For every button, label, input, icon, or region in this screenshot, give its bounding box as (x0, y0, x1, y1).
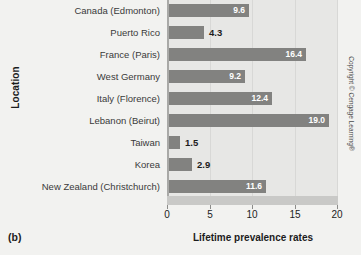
x-tick-label: 0 (152, 209, 182, 220)
bar (167, 158, 192, 171)
figure-panel: Location Canada (Edmonton)Puerto RicoFra… (0, 0, 361, 255)
bar-value-label: 11.6 (167, 180, 266, 193)
bar-row: 1.5 (167, 132, 337, 154)
category-axis-labels: Canada (Edmonton)Puerto RicoFrance (Pari… (14, 0, 164, 205)
panel-label: (b) (8, 231, 21, 243)
x-tick-label: 10 (237, 209, 267, 220)
category-label: New Zealand (Christchurch) (42, 176, 160, 198)
x-tick-label: 20 (322, 209, 352, 220)
bar-row: 19.0 (167, 110, 337, 132)
bar-row: 12.4 (167, 88, 337, 110)
bar-value-label: 16.4 (167, 48, 306, 61)
category-label: Canada (Edmonton) (74, 0, 160, 22)
baseline-band (167, 196, 338, 205)
category-label: Lebanon (Beirut) (89, 110, 160, 132)
x-axis-title: Lifetime prevalence rates (167, 232, 339, 243)
category-label: West Germany (97, 66, 160, 88)
bar-value-label: 1.5 (185, 136, 198, 149)
category-label: Italy (Florence) (97, 88, 160, 110)
bar-row: 4.3 (167, 22, 337, 44)
bar-value-label: 19.0 (167, 114, 329, 127)
category-label: France (Paris) (100, 44, 160, 66)
bar-row: 9.6 (167, 0, 337, 22)
bar-row: 16.4 (167, 44, 337, 66)
bar-value-label: 9.6 (167, 4, 249, 17)
bar-value-label: 2.9 (197, 158, 210, 171)
gridline (337, 0, 338, 205)
x-axis-tick-labels: 05101520 (0, 209, 361, 223)
bar-row: 2.9 (167, 154, 337, 176)
bar-row: 11.6 (167, 176, 337, 198)
plot-area: 9.64.316.49.212.419.01.52.911.6 (167, 0, 338, 205)
bar-value-label: 9.2 (167, 70, 245, 83)
category-label: Puerto Rico (110, 22, 160, 44)
bar-value-label: 4.3 (209, 26, 222, 39)
x-tick-label: 5 (195, 209, 225, 220)
bar-row: 9.2 (167, 66, 337, 88)
bar (167, 26, 204, 39)
copyright-notice: Copyright © Cengage Learning® (348, 29, 355, 179)
category-label: Korea (135, 154, 160, 176)
category-label: Taiwan (130, 132, 160, 154)
y-axis-spine (167, 0, 169, 205)
bar-value-label: 12.4 (167, 92, 272, 105)
x-tick-label: 15 (280, 209, 310, 220)
